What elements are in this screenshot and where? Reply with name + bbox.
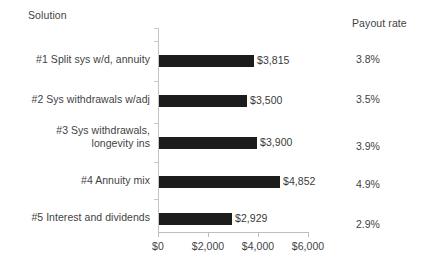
payout-rate-value: 3.5% <box>356 93 380 105</box>
bar-value-label: $3,900 <box>260 136 292 148</box>
solution-column-header: Solution <box>28 9 67 21</box>
category-label: #3 Sys withdrawals, longevity ins <box>56 124 150 149</box>
x-axis-tick-label: $2,000 <box>192 240 224 252</box>
payout-rate-value: 3.8% <box>356 53 380 65</box>
x-axis-tick-label: $6,000 <box>292 240 324 252</box>
y-axis-tick <box>154 28 158 29</box>
payout-rate-value: 3.9% <box>356 140 380 152</box>
category-label: #2 Sys withdrawals w/adj <box>32 93 151 106</box>
x-axis-tick <box>158 233 159 237</box>
y-axis-tick <box>154 199 158 200</box>
bar-value-label: $3,815 <box>257 54 289 66</box>
payout-rate-column-header: Payout rate <box>352 17 407 29</box>
category-label: #4 Annuity mix <box>81 174 150 187</box>
y-axis-tick <box>154 123 158 124</box>
x-axis-tick-label: $4,000 <box>242 240 274 252</box>
bar <box>159 55 254 67</box>
bar <box>159 137 257 149</box>
y-axis-tick <box>154 41 158 42</box>
bar-chart: Solution Payout rate $0$2,000$4,000$6,00… <box>0 0 424 270</box>
bar-value-label: $3,500 <box>250 94 282 106</box>
bar-value-label: $2,929 <box>235 212 267 224</box>
y-axis-tick <box>154 162 158 163</box>
x-axis-tick-label: $0 <box>152 240 164 252</box>
category-label: #5 Interest and dividends <box>31 211 150 224</box>
payout-rate-value: 4.9% <box>356 178 380 190</box>
x-axis-tick <box>208 233 209 237</box>
y-axis-tick <box>154 81 158 82</box>
bar <box>159 213 232 225</box>
payout-rate-value: 2.9% <box>356 218 380 230</box>
bar <box>159 176 280 188</box>
category-label: #1 Split sys w/d, annuity <box>36 53 150 66</box>
bar <box>159 95 247 107</box>
x-axis-line <box>158 232 309 233</box>
bar-value-label: $4,852 <box>283 175 315 187</box>
x-axis-tick <box>308 233 309 237</box>
x-axis-tick <box>258 233 259 237</box>
